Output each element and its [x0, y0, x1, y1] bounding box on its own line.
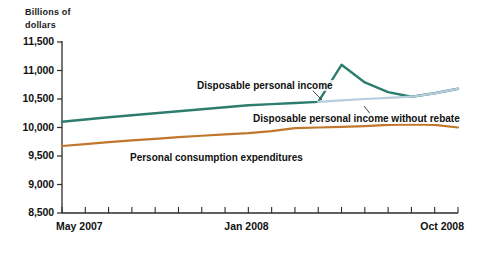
series-label-disposable-personal-income: Disposable personal income [196, 80, 334, 91]
chart-container: Billions of dollars 8,5009,0009,50010,00… [0, 0, 481, 254]
series-label-disposable-personal-income-without-rebate: Disposable personal income without rebat… [252, 113, 461, 124]
series-label-personal-consumption-expenditures: Personal consumption expenditures [129, 152, 304, 163]
axes [57, 41, 458, 213]
data-series [62, 65, 458, 146]
chart-plot-area [0, 0, 481, 254]
